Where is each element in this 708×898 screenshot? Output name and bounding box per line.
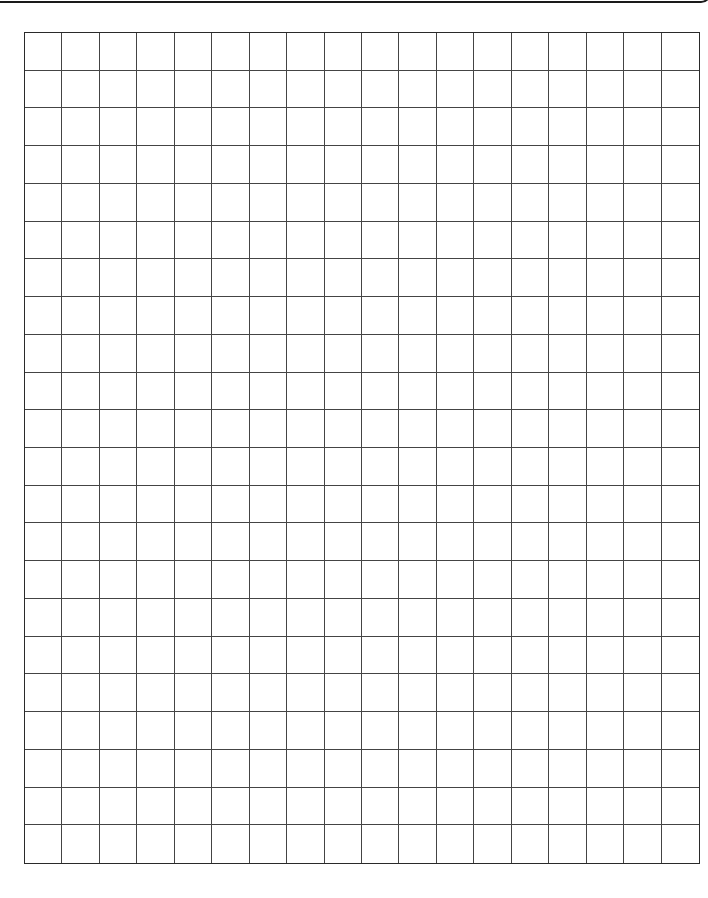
grid-cell	[250, 410, 287, 448]
grid-cell	[399, 373, 436, 411]
grid-cell	[474, 33, 511, 71]
grid-cell	[662, 335, 699, 373]
grid-cell	[212, 712, 249, 750]
grid-cell	[549, 71, 586, 109]
grid-cell	[62, 448, 99, 486]
grid-cell	[399, 448, 436, 486]
grid-cell	[62, 523, 99, 561]
grid-cell	[624, 33, 661, 71]
grid-cell	[549, 222, 586, 260]
grid-cell	[100, 599, 137, 637]
grid-cell	[512, 637, 549, 675]
grid-cell	[250, 71, 287, 109]
grid-cell	[474, 788, 511, 826]
grid-cell	[399, 71, 436, 109]
grid-cell	[325, 788, 362, 826]
grid-cell	[137, 637, 174, 675]
grid-cell	[587, 448, 624, 486]
grid-cell	[549, 297, 586, 335]
grid-cell	[175, 523, 212, 561]
grid-cell	[325, 523, 362, 561]
grid-cell	[549, 335, 586, 373]
grid-cell	[662, 71, 699, 109]
grid-cell	[250, 486, 287, 524]
grid-cell	[549, 825, 586, 863]
grid-cell	[362, 486, 399, 524]
grid-cell	[362, 448, 399, 486]
grid-cell	[325, 448, 362, 486]
grid-cell	[287, 184, 324, 222]
grid-cell	[100, 448, 137, 486]
grid-cell	[325, 561, 362, 599]
grid-cell	[474, 486, 511, 524]
grid-cell	[399, 750, 436, 788]
grid-cell	[624, 335, 661, 373]
grid-cell	[587, 146, 624, 184]
grid-cell	[512, 674, 549, 712]
grid-cell	[662, 825, 699, 863]
grid-cell	[325, 297, 362, 335]
grid-cell	[399, 410, 436, 448]
grid-cell	[474, 71, 511, 109]
grid-cell	[250, 825, 287, 863]
grid-cell	[25, 184, 62, 222]
grid-cell	[587, 674, 624, 712]
grid-cell	[137, 71, 174, 109]
grid-cell	[512, 71, 549, 109]
grid-cell	[587, 335, 624, 373]
grid-cell	[175, 184, 212, 222]
grid-cell	[624, 297, 661, 335]
grid-cell	[25, 674, 62, 712]
grid-cell	[250, 335, 287, 373]
grid-cell	[250, 146, 287, 184]
grid-cell	[437, 108, 474, 146]
grid-cell	[399, 335, 436, 373]
grid-cell	[587, 486, 624, 524]
grid-cell	[662, 561, 699, 599]
grid-cell	[137, 184, 174, 222]
grid-cell	[287, 637, 324, 675]
grid-cell	[100, 108, 137, 146]
grid-cell	[62, 146, 99, 184]
grid-cell	[212, 33, 249, 71]
grid-cell	[624, 561, 661, 599]
grid-cell	[624, 750, 661, 788]
grid-cell	[474, 146, 511, 184]
grid-cell	[25, 637, 62, 675]
grid-cell	[212, 108, 249, 146]
grid-cell	[325, 146, 362, 184]
grid-cell	[587, 184, 624, 222]
grid-cell	[437, 448, 474, 486]
grid-cell	[624, 486, 661, 524]
grid-cell	[212, 674, 249, 712]
grid-cell	[362, 410, 399, 448]
grid-cell	[100, 33, 137, 71]
grid-cell	[662, 486, 699, 524]
grid-cell	[512, 599, 549, 637]
grid-cell	[62, 33, 99, 71]
grid-cell	[100, 184, 137, 222]
grid-cell	[362, 750, 399, 788]
grid-cell	[437, 561, 474, 599]
grid-cell	[137, 674, 174, 712]
grid-cell	[549, 637, 586, 675]
grid-cell	[362, 825, 399, 863]
grid-cell	[25, 523, 62, 561]
grid-cell	[399, 146, 436, 184]
grid-cell	[62, 335, 99, 373]
grid-cell	[212, 222, 249, 260]
grid-cell	[437, 184, 474, 222]
grid-cell	[212, 373, 249, 411]
grid-cell	[212, 71, 249, 109]
grid-cell	[512, 297, 549, 335]
grid-cell	[662, 259, 699, 297]
grid-cell	[250, 637, 287, 675]
grid-cell	[100, 222, 137, 260]
grid-cell	[474, 373, 511, 411]
grid-cell	[25, 108, 62, 146]
graph-paper-grid	[24, 32, 700, 864]
grid-cell	[250, 674, 287, 712]
grid-cell	[175, 297, 212, 335]
grid-cell	[587, 788, 624, 826]
grid-cell	[549, 259, 586, 297]
